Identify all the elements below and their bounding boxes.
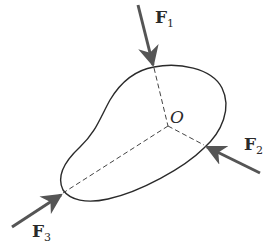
- rigid-body-outline: [61, 65, 226, 201]
- point-o-label: O: [170, 107, 184, 127]
- force-arrow-f1: [138, 5, 153, 65]
- lines-of-action: [63, 68, 204, 193]
- force-label-f2: F2: [244, 134, 263, 157]
- dashed-line-f2: [168, 126, 204, 145]
- dashed-line-f1: [154, 68, 168, 126]
- force-label-f3: F3: [32, 221, 51, 244]
- force-label-f1: F1: [155, 7, 174, 30]
- force-diagram: O F1 F2 F3: [0, 0, 270, 252]
